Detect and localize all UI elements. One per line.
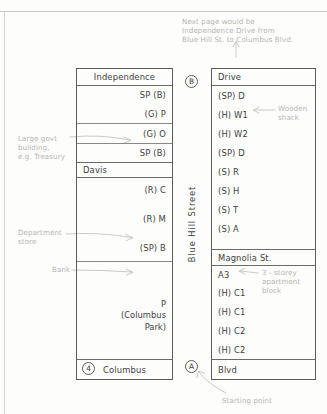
right-row-s-h: (S) H bbox=[212, 181, 315, 200]
left-row-g-o: (G) O bbox=[77, 123, 172, 143]
left-row-sp-b-2: SP (B) bbox=[77, 143, 172, 162]
left-columbus-park-area: P (Columbus Park) bbox=[77, 261, 172, 359]
right-row-a3: A3 bbox=[212, 266, 315, 283]
annotation-starting-point: Starting point bbox=[222, 396, 312, 405]
left-header-davis: Davis bbox=[77, 162, 172, 178]
right-row-s-t: (S) T bbox=[212, 200, 315, 219]
marker-circle-a: A bbox=[185, 360, 198, 373]
right-header-magnolia: Magnolia St. bbox=[212, 249, 315, 266]
annotation-next-page: Next page would be Independence Drive fr… bbox=[182, 17, 327, 45]
right-row-h-c2-b: (H) C2 bbox=[212, 340, 315, 359]
right-block-border: Drive (SP) D (H) W1 (H) W2 (SP) D (S) R … bbox=[211, 68, 316, 380]
right-row-h-w1: (H) W1 bbox=[212, 105, 315, 124]
left-header-independence: Independence bbox=[77, 69, 172, 86]
left-block-column: Independence SP (B) (G) P (G) O SP (B) D… bbox=[76, 68, 173, 380]
right-block-column: Drive (SP) D (H) W1 (H) W2 (SP) D (S) R … bbox=[211, 68, 316, 380]
street-name-blue-hill: Blue Hill Street bbox=[187, 186, 197, 262]
right-row-h-w2: (H) W2 bbox=[212, 124, 315, 143]
left-label-columbus-park: P (Columbus Park) bbox=[121, 299, 166, 334]
right-footer-blvd: Blvd bbox=[212, 359, 315, 379]
page-edge-top-line bbox=[0, 11, 327, 12]
left-row-sp-b-1: SP (B) bbox=[77, 86, 172, 104]
page-edge-left-line bbox=[4, 11, 5, 414]
right-row-s-r: (S) R bbox=[212, 162, 315, 181]
left-row-g-p: (G) P bbox=[77, 104, 172, 123]
right-row-sp-d-2: (SP) D bbox=[212, 143, 315, 162]
left-row-r-c: (R) C bbox=[77, 178, 172, 202]
street-map-grid: Independence SP (B) (G) P (G) O SP (B) D… bbox=[76, 68, 316, 380]
right-row-h-c1-b: (H) C1 bbox=[212, 302, 315, 321]
left-row-r-m: (R) M bbox=[77, 202, 172, 235]
annotation-govt-building: Large govt building, e.g. Treasury bbox=[18, 134, 80, 162]
right-row-sp-d-1: (SP) D bbox=[212, 86, 315, 105]
right-header-drive: Drive bbox=[212, 69, 315, 86]
right-row-h-c1-a: (H) C1 bbox=[212, 283, 315, 302]
marker-circle-b: B bbox=[185, 75, 198, 88]
marker-circle-4: 4 bbox=[82, 362, 95, 375]
right-gap-spacer bbox=[212, 238, 315, 249]
right-row-s-a: (S) A bbox=[212, 219, 315, 238]
left-block-border: Independence SP (B) (G) P (G) O SP (B) D… bbox=[76, 68, 173, 380]
annotation-department-store: Department store bbox=[18, 228, 80, 246]
right-row-h-c2-a: (H) C2 bbox=[212, 321, 315, 340]
middle-street-column: B Blue Hill Street A bbox=[173, 68, 211, 380]
left-row-sp-b-3: (SP) B bbox=[77, 235, 172, 261]
